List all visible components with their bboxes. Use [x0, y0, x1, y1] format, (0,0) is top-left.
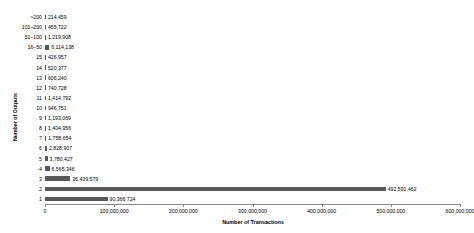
bar-value-label: 455,722: [48, 24, 67, 30]
bar-row: 91,193,069: [45, 113, 460, 123]
bar: [45, 136, 46, 141]
bar-value-label: 1,219,908: [48, 34, 71, 40]
y-axis-title-text: Number of Outputs: [12, 92, 18, 140]
x-axis-tick: [114, 204, 115, 207]
bar-row: 12740,728: [45, 83, 460, 93]
bar-value-label: 492,591,462: [388, 186, 417, 192]
bar-row: 14520,377: [45, 63, 460, 73]
bar-value-label: 520,377: [48, 65, 67, 71]
y-axis-title: Number of Outputs: [8, 0, 22, 233]
category-label: 6: [39, 145, 42, 151]
category-label: 16–50: [28, 44, 42, 50]
category-label: 10: [36, 105, 42, 111]
bar-value-label: 1,414,792: [48, 95, 71, 101]
plot-area: >200214,459101–200455,72251–1001,219,908…: [45, 12, 460, 204]
bar-value-label: 6,114,138: [51, 44, 74, 50]
bar-value-label: 36,439,579: [72, 176, 98, 182]
bar-value-label: 90,366,724: [110, 196, 136, 202]
bar-row: 15426,957: [45, 52, 460, 62]
bar-row: 336,439,579: [45, 174, 460, 184]
category-label: 14: [36, 65, 42, 71]
bar: [45, 156, 48, 161]
x-axis-title: Number of Transactions: [45, 219, 461, 225]
category-label: 12: [36, 85, 42, 91]
bar: [45, 75, 46, 80]
bar: [45, 187, 386, 192]
x-axis-tick: [322, 204, 323, 207]
category-label: 2: [39, 186, 42, 192]
bar-row: 2492,591,462: [45, 184, 460, 194]
x-axis-tick-label: 300,000,000: [238, 208, 267, 214]
bar-row: 10946,751: [45, 103, 460, 113]
x-axis-tick-label: 600,000,000: [446, 208, 474, 214]
x-axis-tick-label: 100,000,000: [100, 208, 129, 214]
bar: [45, 197, 108, 202]
bar-row: 53,780,427: [45, 153, 460, 163]
x-axis-tick-label: 200,000,000: [169, 208, 198, 214]
bar: [45, 65, 46, 70]
category-label: 51–100: [25, 34, 42, 40]
bar-value-label: 1,193,069: [48, 115, 71, 121]
bar-row: 51–1001,219,908: [45, 32, 460, 42]
bar-value-label: 6,565,346: [52, 166, 75, 172]
bar-row: >200214,459: [45, 12, 460, 22]
category-label: >200: [30, 14, 42, 20]
bar-row: 46,565,346: [45, 164, 460, 174]
bar: [45, 106, 46, 111]
category-label: 8: [39, 125, 42, 131]
bar: [45, 55, 46, 60]
bar: [45, 166, 50, 171]
bar-row: 13606,240: [45, 73, 460, 83]
bar-value-label: 606,240: [48, 75, 67, 81]
x-axis-tick: [45, 204, 46, 207]
bar: [45, 85, 46, 90]
category-label: 5: [39, 156, 42, 162]
category-label: 11: [37, 95, 42, 101]
bar-row: 16–506,114,138: [45, 42, 460, 52]
bar: [45, 35, 46, 40]
bar-row: 81,404,956: [45, 123, 460, 133]
bar: [45, 25, 46, 30]
bar-value-label: 1,404,956: [48, 125, 71, 131]
category-label: 1: [39, 196, 42, 202]
x-axis-tick-label: 500,000,000: [376, 208, 405, 214]
bar-value-label: 214,459: [48, 14, 67, 20]
bar: [45, 96, 46, 101]
bar-value-label: 3,780,427: [50, 156, 73, 162]
x-axis-tick-label: 0: [44, 208, 47, 214]
category-label: 101–200: [22, 24, 42, 30]
category-label: 4: [39, 166, 42, 172]
bar: [45, 146, 47, 151]
bar-value-label: 426,957: [48, 54, 67, 60]
bar-value-label: 2,828,907: [49, 145, 72, 151]
x-axis-tick-label: 400,000,000: [307, 208, 336, 214]
bar: [45, 45, 49, 50]
bar: [45, 126, 46, 131]
x-axis-tick: [391, 204, 392, 207]
bar-row: 101–200455,722: [45, 22, 460, 32]
category-label: 7: [39, 135, 42, 141]
bar-value-label: 946,751: [48, 105, 67, 111]
category-label: 13: [36, 75, 42, 81]
x-axis-tick: [460, 204, 461, 207]
bar: [45, 116, 46, 121]
bar-row: 111,414,792: [45, 93, 460, 103]
bar-value-label: 1,758,654: [48, 135, 71, 141]
bar-value-label: 740,728: [48, 85, 67, 91]
bar-row: 190,366,724: [45, 194, 460, 204]
x-axis-tick: [253, 204, 254, 207]
bar-row: 71,758,654: [45, 133, 460, 143]
category-label: 3: [39, 176, 42, 182]
x-axis-tick: [183, 204, 184, 207]
category-label: 15: [36, 54, 42, 60]
category-label: 9: [39, 115, 42, 121]
bar-row: 62,828,907: [45, 143, 460, 153]
bar: [45, 176, 70, 181]
bar: [45, 15, 46, 20]
